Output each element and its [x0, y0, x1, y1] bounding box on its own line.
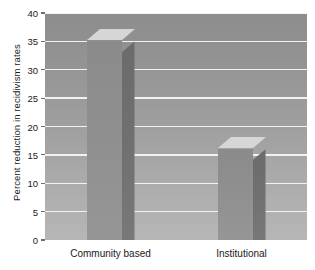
x-axis-category-label: Community based — [70, 248, 151, 259]
bar-side-face — [122, 41, 135, 240]
plot-area — [45, 13, 307, 240]
bar-side-face — [253, 149, 266, 240]
gridline — [45, 183, 307, 184]
x-axis-category-label: Institutional — [216, 248, 267, 259]
y-axis-tick-label: 35 — [0, 36, 38, 47]
gridline — [45, 126, 307, 127]
bar-top-face — [87, 29, 135, 41]
y-axis-tick-label: 10 — [0, 178, 38, 189]
bar — [87, 30, 135, 240]
y-axis-tick-label: 40 — [0, 8, 38, 19]
gridline — [45, 13, 307, 14]
y-axis-tick-label: 20 — [0, 121, 38, 132]
y-axis-tick-labels: 0510152025303540 — [0, 0, 38, 270]
bar-chart: Percent reduction in recidivism rates 05… — [0, 0, 315, 270]
gridline — [45, 41, 307, 42]
bar — [218, 138, 266, 240]
y-axis-tick-label: 15 — [0, 149, 38, 160]
y-axis-tick-label: 5 — [0, 206, 38, 217]
gridline — [45, 97, 307, 98]
bar-top-face — [218, 137, 266, 149]
bar-front-face — [218, 149, 253, 240]
gridline — [45, 69, 307, 70]
bar-front-face — [87, 41, 122, 240]
y-axis-tick-label: 25 — [0, 93, 38, 104]
y-axis-tick-label: 30 — [0, 64, 38, 75]
gridline — [45, 211, 307, 212]
y-axis-tick-label: 0 — [0, 235, 38, 246]
gridline — [45, 154, 307, 155]
